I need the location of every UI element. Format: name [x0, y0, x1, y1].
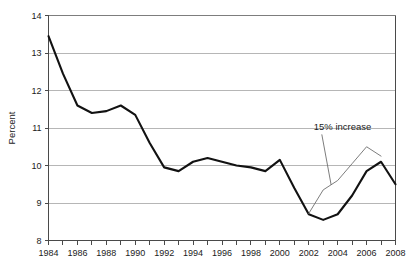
- x-tickmarks-group: [49, 241, 396, 245]
- y-tick-label-9: 9: [36, 198, 41, 208]
- x-tick-labels-group: 1984198619881990199219941996199820002002…: [38, 248, 405, 258]
- y-tick-label-12: 12: [31, 86, 41, 96]
- x-tick-label-2006: 2006: [357, 248, 377, 258]
- y-tick-label-10: 10: [31, 161, 41, 171]
- y-tick-label-14: 14: [31, 11, 41, 21]
- x-tick-label-1998: 1998: [241, 248, 261, 258]
- x-tick-label-2008: 2008: [385, 248, 405, 258]
- x-tick-label-1988: 1988: [96, 248, 116, 258]
- y-tick-labels-group: 891011121314: [31, 11, 41, 246]
- x-tick-label-1996: 1996: [212, 248, 232, 258]
- x-tick-label-2002: 2002: [299, 248, 319, 258]
- x-tick-label-1994: 1994: [183, 248, 203, 258]
- y-axis-title-group: Percent: [6, 111, 17, 144]
- gridlines-group: [49, 16, 396, 204]
- y-tick-label-13: 13: [31, 48, 41, 58]
- x-tick-label-2000: 2000: [270, 248, 290, 258]
- y-tick-label-8: 8: [36, 236, 41, 246]
- line-chart: 891011121314 198419861988199019921994199…: [0, 0, 417, 274]
- x-tick-label-1986: 1986: [67, 248, 87, 258]
- x-tick-label-1990: 1990: [125, 248, 145, 258]
- y-tickmarks-group: [45, 16, 49, 241]
- x-tick-label-1992: 1992: [154, 248, 174, 258]
- x-tick-label-2004: 2004: [328, 248, 348, 258]
- y-tick-label-11: 11: [32, 123, 41, 133]
- annotation-label: 15% increase: [314, 121, 372, 132]
- chart-container: 891011121314 198419861988199019921994199…: [0, 0, 417, 274]
- annotation-leader-line: [322, 134, 331, 185]
- x-tick-label-1984: 1984: [38, 248, 58, 258]
- y-axis-title: Percent: [6, 111, 17, 144]
